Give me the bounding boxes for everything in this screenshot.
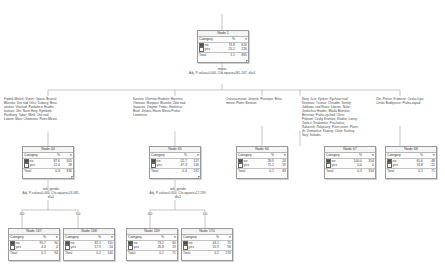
edge-value-mid-0: 0.0 [140, 212, 160, 216]
total-label: Total [182, 251, 205, 256]
node-65[interactable]: Node 65 Category % n no52.7127 yes47.311… [149, 146, 201, 179]
row-label: yes [244, 164, 249, 168]
total-pct: 0.2 [87, 251, 102, 256]
node-row-total: Total0.2170 [182, 251, 232, 256]
total-n: 241 [188, 169, 200, 174]
row-label: yes [16, 246, 21, 250]
swatch-yes-icon [24, 163, 29, 168]
node-65-expander[interactable] [198, 176, 201, 179]
total-n: 336 [61, 169, 73, 174]
node-row-total: Total0.171 [386, 169, 436, 174]
total-n: 885 [236, 53, 248, 58]
total-label: Total [325, 169, 348, 174]
split-label-root: mesto Adj. P-value=0.000, Chi-square=361… [167, 67, 277, 75]
total-label: Total [9, 251, 32, 256]
node-66[interactable]: Node 66 Category % n no28.924 yes71.159 … [236, 146, 288, 179]
node-row-total: Total0.3354 [325, 169, 375, 174]
swatch-yes-icon [65, 245, 70, 250]
branch-label-2: Karvina; Uherske Hradiste; Hornitriz; Ol… [133, 97, 219, 117]
node-table: Category % n no52.7127 yes47.3116 Total0… [150, 153, 200, 174]
swatch-yes-icon [199, 47, 204, 52]
row-label: yes [332, 164, 337, 168]
node-table: Category % n no 74.8 620 yes 25.2 226 To… [198, 37, 248, 58]
row-label: yes [134, 246, 139, 250]
node-row-total: Total0.171 [127, 251, 177, 256]
branch-label-1: Frydek-Mistek; Vsetin; Opava; Bruntal; B… [4, 97, 98, 121]
swatch-yes-icon [128, 245, 133, 250]
node-row-total: Total0.2140 [64, 251, 114, 256]
row-label: no [16, 241, 20, 245]
row-label: yes [189, 246, 194, 250]
edge-value-left-0: 0.0 [12, 212, 32, 216]
node-44[interactable]: Node 44 Category % n no87.6305 yes12.428… [22, 146, 74, 179]
node-170[interactable]: Node 170 Category % n no44.175 yes55.996… [181, 228, 233, 261]
split-label-left: vek_gender Adj. P-value=0.000, Chi-squar… [3, 187, 99, 200]
total-pct: 0.1 [32, 251, 47, 256]
node-row-total: Total0.3241 [150, 169, 200, 174]
total-pct: 0.1 [260, 169, 275, 174]
node-table: Category % n no82.1110 yes17.924 Total0.… [64, 235, 114, 256]
row-label: no [189, 241, 193, 245]
row-label: no [30, 159, 34, 163]
node-table: Category % n no73.260 yes26.819 Total0.1… [127, 235, 177, 256]
swatch-yes-icon [238, 163, 243, 168]
total-pct: 0.2 [205, 251, 220, 256]
row-label: no [205, 43, 209, 47]
branch-label-3: Ostrava-mesto; Jesenik; Prostejov; Brno-… [226, 97, 298, 105]
total-pct: 1.1 [221, 53, 236, 58]
total-pct: 0.1 [409, 169, 424, 174]
row-label: yes [393, 164, 398, 168]
total-n: 83 [275, 169, 287, 174]
total-n: 170 [220, 251, 232, 256]
row-label: no [157, 159, 161, 163]
node-row-total: Total 1.1 885 [198, 53, 248, 58]
total-pct: 0.1 [150, 251, 165, 256]
node-row-total: Total0.183 [237, 169, 287, 174]
split-label-mid: vek_gender Adj. P-value=0.000, Chi-squar… [130, 187, 226, 200]
node-table: Category % n no87.6305 yes12.428 Total0.… [23, 153, 73, 174]
node-44-expander[interactable] [71, 176, 74, 179]
edge-value-mid-1: 1.0 [195, 212, 215, 216]
node-167[interactable]: Node 167 Category % n no95.790 yes4.34 T… [8, 228, 60, 261]
row-label: no [332, 159, 336, 163]
total-label: Total [127, 251, 150, 256]
node-68[interactable]: Node 68 Category % n no65.648 yes31.822 … [385, 146, 437, 179]
node-168[interactable]: Node 168 Category % n no82.1110 yes17.92… [63, 228, 115, 261]
row-label: no [393, 159, 397, 163]
swatch-yes-icon [183, 245, 188, 250]
row-label: no [244, 159, 248, 163]
total-label: Total [386, 169, 409, 174]
node-row-total: Total0.3336 [23, 169, 73, 174]
node-169[interactable]: Node 169 Category % n no73.260 yes26.819… [126, 228, 178, 261]
row-label: yes [71, 246, 76, 250]
total-pct: 0.3 [173, 169, 188, 174]
total-n: 71 [165, 251, 177, 256]
total-label: Total [237, 169, 260, 174]
row-label: yes [30, 164, 35, 168]
total-label: Total [64, 251, 87, 256]
total-pct: 0.3 [348, 169, 363, 174]
total-label: Total [150, 169, 173, 174]
branch-label-5: Zlin; Prerov; Kromeriz; Ceska Lipa; Cesk… [376, 97, 442, 105]
node-table: Category % n no28.924 yes71.159 Total0.1… [237, 153, 287, 174]
decision-tree-canvas: Node 1 Category % n no 74.8 620 yes 25.2 [0, 0, 445, 271]
total-label: Total [23, 169, 46, 174]
swatch-yes-icon [10, 245, 15, 250]
row-label: yes [157, 164, 162, 168]
node-table: Category % n no65.648 yes31.822 Total0.1… [386, 153, 436, 174]
node-67[interactable]: Node 67 Category % n no100.0354 yes0.00 … [324, 146, 376, 179]
total-pct: 0.3 [46, 169, 61, 174]
node-root-expander[interactable] [246, 60, 249, 63]
node-row-total: Total0.194 [9, 251, 59, 256]
row-label: yes [205, 48, 210, 52]
total-n: 354 [363, 169, 375, 174]
node-table: Category % n no44.175 yes55.996 Total0.2… [182, 235, 232, 256]
swatch-yes-icon [326, 163, 331, 168]
branch-label-4: Novy Jicin; Vyskov; Rychnov nad Kneznou;… [302, 97, 372, 137]
total-n: 71 [424, 169, 436, 174]
node-table: Category % n no95.790 yes4.34 Total0.194 [9, 235, 59, 256]
row-label: no [134, 241, 138, 245]
node-table: Category % n no100.0354 yes0.00 Total0.3… [325, 153, 375, 174]
edge-value-left-1: 1.0 [68, 212, 88, 216]
node-root[interactable]: Node 1 Category % n no 74.8 620 yes 25.2 [197, 30, 249, 63]
